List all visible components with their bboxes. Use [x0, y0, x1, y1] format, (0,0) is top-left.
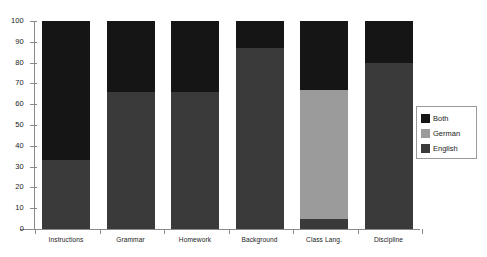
- y-tick-label: 10: [15, 204, 24, 212]
- y-tick-label: 80: [15, 59, 24, 67]
- bar-segment-english: [107, 92, 155, 229]
- bar-instructions: [42, 21, 90, 229]
- y-tick-label: 30: [15, 163, 24, 171]
- y-tick-label: 20: [15, 183, 24, 191]
- bar-segment-both: [171, 21, 219, 92]
- german-swatch: [421, 129, 430, 138]
- x-tick: [35, 229, 36, 234]
- x-tick: [100, 229, 101, 234]
- bar-segment-both: [107, 21, 155, 92]
- x-tick: [358, 229, 359, 234]
- bar-segment-english: [171, 92, 219, 229]
- x-tick: [229, 229, 230, 234]
- y-tick-label: 0: [20, 225, 24, 233]
- both-swatch: [421, 114, 430, 123]
- chart-legend: Both German English: [416, 106, 477, 159]
- bar-segment-english: [236, 48, 284, 229]
- y-tick-label: 70: [15, 79, 24, 87]
- legend-label-english: English: [433, 144, 458, 153]
- bars-layer: [35, 21, 420, 229]
- y-tick-label: 40: [15, 142, 24, 150]
- bar-segment-both: [236, 21, 284, 48]
- y-tick-label: 90: [15, 38, 24, 46]
- stacked-bar-chart: 0102030405060708090100 InstructionsGramm…: [0, 0, 487, 257]
- legend-label-both: Both: [433, 114, 448, 123]
- bar-homework: [171, 21, 219, 229]
- bar-segment-both: [300, 21, 348, 90]
- legend-item-both: Both: [421, 111, 476, 126]
- bar-segment-both: [365, 21, 413, 63]
- y-tick-label: 100: [11, 17, 24, 25]
- bar-segment-english: [300, 219, 348, 229]
- x-tick: [164, 229, 165, 234]
- y-tick-label: 50: [15, 121, 24, 129]
- bar-segment-german: [300, 90, 348, 219]
- legend-item-english: English: [421, 141, 476, 156]
- x-axis-label: Discipline: [349, 236, 429, 244]
- bar-segment-english: [42, 160, 90, 229]
- x-tick: [293, 229, 294, 234]
- bar-segment-english: [365, 63, 413, 229]
- english-swatch: [421, 144, 430, 153]
- y-tick-label: 60: [15, 100, 24, 108]
- bar-class-lang: [300, 21, 348, 229]
- x-tick: [422, 229, 423, 234]
- bar-background: [236, 21, 284, 229]
- bar-grammar: [107, 21, 155, 229]
- bar-discipline: [365, 21, 413, 229]
- x-axis-line: [20, 229, 420, 230]
- legend-item-german: German: [421, 126, 476, 141]
- legend-label-german: German: [433, 129, 460, 138]
- bar-segment-both: [42, 21, 90, 160]
